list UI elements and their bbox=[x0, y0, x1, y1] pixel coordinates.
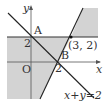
x-tick-label-2: 2 bbox=[55, 62, 62, 75]
point-3-2-label: (3, 2) bbox=[68, 39, 98, 52]
y-axis-arrow-icon bbox=[29, 5, 33, 10]
origin-label: O bbox=[22, 63, 31, 76]
point-a-label: A bbox=[33, 24, 43, 37]
y-tick-label-2: 2 bbox=[24, 37, 31, 50]
sum-line-label: x+y=2 bbox=[64, 89, 102, 102]
y-axis-label: y bbox=[22, 2, 30, 15]
x-axis-label: x bbox=[96, 63, 103, 76]
shaded-region-upper-right bbox=[71, 8, 98, 37]
inequality-diagram: y x O 2 2 A B (3, 2) x+y=2 bbox=[0, 0, 108, 107]
